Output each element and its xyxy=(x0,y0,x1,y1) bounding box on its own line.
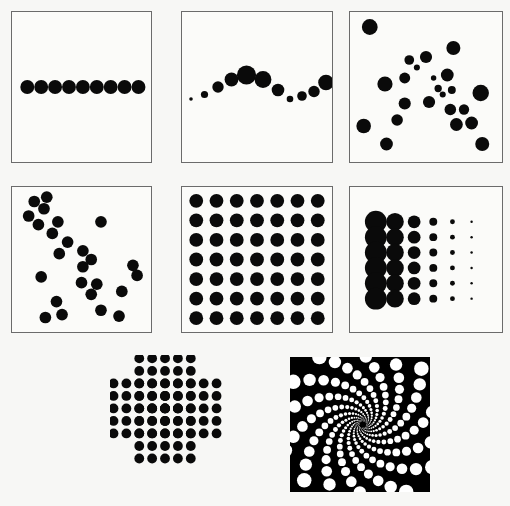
data-dot xyxy=(399,97,411,109)
data-dot xyxy=(34,80,48,94)
data-dot xyxy=(270,292,284,306)
data-dot xyxy=(147,379,157,389)
data-dot xyxy=(189,213,203,227)
data-dot xyxy=(362,19,378,35)
data-dot xyxy=(290,443,292,457)
data-dot xyxy=(270,194,284,208)
data-dot xyxy=(349,422,351,424)
data-dot xyxy=(255,71,272,88)
spiral-plot xyxy=(290,357,430,492)
data-dot xyxy=(230,311,244,325)
data-dot xyxy=(359,403,363,407)
data-dot xyxy=(425,460,430,474)
data-dot xyxy=(426,406,430,418)
panel-size-gradient-grid xyxy=(349,186,503,333)
data-dot xyxy=(147,404,157,414)
data-dot xyxy=(210,253,224,267)
data-dot xyxy=(85,288,97,300)
data-dot xyxy=(250,194,264,208)
data-dot xyxy=(147,441,157,451)
data-dot xyxy=(386,274,404,292)
data-dot xyxy=(356,422,357,423)
pinwheel-plot xyxy=(110,355,250,491)
data-dot xyxy=(121,416,131,426)
data-dot xyxy=(77,245,89,257)
data-dot xyxy=(342,363,353,374)
data-dot xyxy=(250,253,264,267)
panel-regular-grid xyxy=(181,186,333,333)
data-dot xyxy=(173,454,183,464)
data-dot xyxy=(113,310,125,322)
data-dot xyxy=(270,253,284,267)
data-dot xyxy=(116,286,128,298)
data-dot xyxy=(363,421,364,422)
data-dot xyxy=(363,442,367,446)
data-dot xyxy=(360,433,362,435)
data-dot xyxy=(134,391,144,401)
data-dot xyxy=(425,436,430,448)
data-dot xyxy=(450,118,463,131)
data-dot xyxy=(186,429,196,439)
data-dot xyxy=(446,41,460,55)
data-dot xyxy=(361,434,363,436)
data-dot xyxy=(356,119,371,134)
data-dot xyxy=(360,427,361,428)
data-dot xyxy=(361,395,366,400)
data-dot xyxy=(364,420,365,421)
data-dot xyxy=(366,425,367,426)
wave-of-dots-plot xyxy=(182,12,332,162)
data-dot xyxy=(357,427,358,428)
data-dot xyxy=(420,51,432,63)
data-dot xyxy=(23,210,35,222)
data-dot xyxy=(270,272,284,286)
data-dot xyxy=(53,248,65,260)
data-dot xyxy=(366,422,367,423)
data-dot xyxy=(356,431,358,433)
data-dot xyxy=(391,114,403,126)
data-dot xyxy=(347,424,350,427)
data-dot xyxy=(147,429,157,439)
panel-row-of-dots xyxy=(11,11,152,163)
data-dot xyxy=(473,85,489,101)
data-dot xyxy=(364,470,373,479)
data-dot xyxy=(360,420,361,421)
data-dot xyxy=(414,378,426,390)
data-dot xyxy=(173,404,183,414)
data-dot xyxy=(121,391,131,401)
data-dot xyxy=(160,379,170,389)
data-dot xyxy=(450,265,455,270)
data-dot xyxy=(395,385,404,394)
data-dot xyxy=(349,397,354,402)
data-dot xyxy=(450,296,455,301)
data-dot xyxy=(360,411,362,413)
data-dot xyxy=(291,213,305,227)
data-dot xyxy=(363,418,364,419)
data-dot xyxy=(230,292,244,306)
data-dot xyxy=(378,433,382,437)
data-dot xyxy=(361,418,362,419)
data-dot xyxy=(366,424,367,425)
data-dot xyxy=(359,431,360,432)
data-dot xyxy=(380,416,384,420)
data-dot xyxy=(338,438,343,443)
data-dot xyxy=(414,361,428,375)
regular-grid-plot xyxy=(182,187,332,332)
data-dot xyxy=(353,438,356,441)
data-dot xyxy=(311,292,325,306)
data-dot xyxy=(41,191,53,203)
data-dot xyxy=(378,427,381,430)
data-dot xyxy=(186,379,196,389)
data-dot xyxy=(51,296,63,308)
data-dot xyxy=(375,434,378,437)
data-dot xyxy=(91,278,103,290)
data-dot xyxy=(359,418,360,419)
data-dot xyxy=(355,400,359,404)
data-dot xyxy=(375,429,378,432)
data-dot xyxy=(199,404,209,414)
data-dot xyxy=(366,419,367,420)
data-dot xyxy=(374,419,376,421)
data-dot xyxy=(367,385,374,392)
data-dot xyxy=(189,194,203,208)
data-dot xyxy=(366,433,368,435)
data-dot xyxy=(272,84,285,97)
